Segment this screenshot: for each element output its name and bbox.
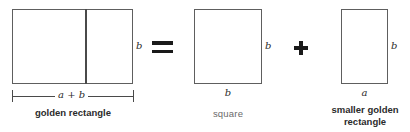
golden-rectangle-width-dimension: a + b	[12, 90, 134, 102]
smaller-golden-rectangle-caption-line2: rectangle	[344, 116, 386, 127]
smaller-golden-rectangle-caption: smaller golden rectangle	[321, 104, 409, 127]
square-shape	[194, 9, 262, 84]
smaller-golden-rectangle-shape	[341, 9, 388, 84]
golden-rectangle-diagram: b a + b golden rectangle b b square b a …	[0, 0, 410, 132]
golden-rectangle-side-label: b	[136, 41, 142, 51]
equals-bar-top	[152, 41, 173, 45]
dimension-label-a-plus-b: a + b	[55, 89, 88, 101]
plus-sign	[294, 41, 308, 55]
square-side-label: b	[265, 41, 271, 51]
golden-rectangle-shape	[12, 9, 133, 84]
square-caption: square	[194, 108, 262, 119]
square-bottom-label: b	[194, 88, 262, 98]
smaller-golden-rectangle-side-label: b	[391, 41, 397, 51]
equals-sign	[152, 41, 173, 53]
equals-bar-bottom	[152, 50, 173, 54]
smaller-golden-rectangle-caption-line1: smaller golden	[331, 104, 398, 115]
plus-stroke-vertical	[299, 41, 302, 55]
smaller-golden-rectangle-bottom-label: a	[341, 88, 388, 98]
golden-rectangle-caption: golden rectangle	[12, 107, 134, 118]
golden-rectangle-divider	[85, 9, 87, 84]
